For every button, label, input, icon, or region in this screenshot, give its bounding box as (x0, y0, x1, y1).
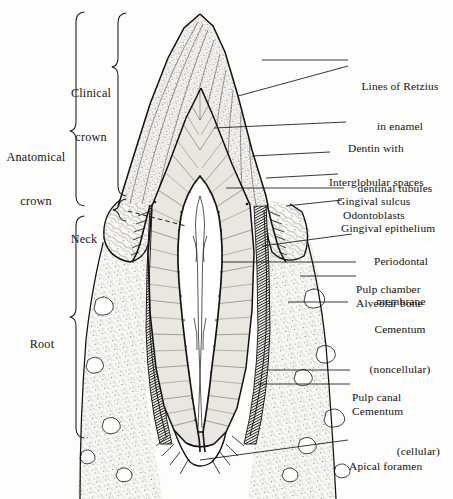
tooth-anatomy-figure: Clinical crown Anatomical crown Neck Roo… (0, 0, 453, 499)
callout-apical-foramen: Apical foramen (349, 433, 453, 499)
clinical-crown-line1: Clinical (62, 86, 120, 101)
neck-line1: Neck (58, 232, 110, 247)
root-line1: Root (16, 337, 68, 352)
cementum-cellular-line1: Cementum (348, 405, 450, 418)
lines-of-retzius-line1: Lines of Retzius (350, 80, 450, 93)
bracket-label-neck: Neck (58, 203, 110, 276)
cementum-noncellular-line1: Cementum (350, 323, 450, 336)
anatomical-crown-line1: Anatomical (2, 150, 70, 165)
apical-foramen-line1: Apical foramen (349, 460, 453, 473)
bracket-label-root: Root (16, 308, 68, 381)
clinical-crown-line2: crown (62, 130, 120, 145)
bracket-label-clinical-crown: Clinical crown (62, 57, 120, 173)
